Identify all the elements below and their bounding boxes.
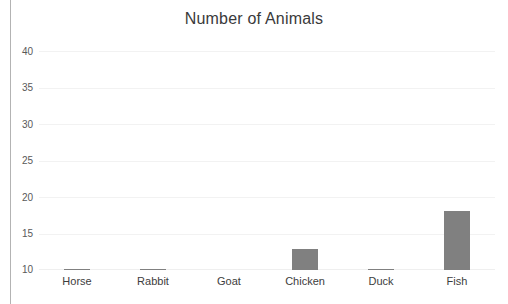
bar-slot-fish bbox=[419, 51, 495, 270]
x-tick-goat: Goat bbox=[191, 274, 267, 288]
y-tick-10: 10 bbox=[7, 265, 33, 275]
y-tick-30: 30 bbox=[7, 120, 33, 130]
bar-slot-horse bbox=[39, 51, 115, 270]
y-axis: 40 35 30 25 20 15 10 bbox=[0, 51, 33, 270]
bar-rabbit[interactable] bbox=[140, 269, 166, 271]
chart-figure: Number of Animals 40 35 30 25 20 15 10 bbox=[0, 0, 508, 304]
x-tick-chicken: Chicken bbox=[267, 274, 343, 288]
x-tick-duck: Duck bbox=[343, 274, 419, 288]
y-tick-20: 20 bbox=[7, 193, 33, 203]
bar-fish[interactable] bbox=[444, 211, 470, 270]
bar-slot-goat bbox=[191, 51, 267, 270]
y-tick-15: 15 bbox=[7, 229, 33, 239]
bar-chicken[interactable] bbox=[292, 249, 318, 270]
bars-layer bbox=[39, 51, 495, 270]
x-axis: Horse Rabbit Goat Chicken Duck Fish bbox=[39, 274, 495, 296]
x-tick-horse: Horse bbox=[39, 274, 115, 288]
bar-horse[interactable] bbox=[64, 269, 90, 271]
x-tick-rabbit: Rabbit bbox=[115, 274, 191, 288]
chart-title: Number of Animals bbox=[0, 9, 508, 29]
y-tick-40: 40 bbox=[7, 47, 33, 57]
y-tick-25: 25 bbox=[7, 156, 33, 166]
bar-slot-chicken bbox=[267, 51, 343, 270]
bar-duck[interactable] bbox=[368, 269, 394, 271]
y-tick-35: 35 bbox=[7, 83, 33, 93]
bar-slot-duck bbox=[343, 51, 419, 270]
x-tick-fish: Fish bbox=[419, 274, 495, 288]
bar-slot-rabbit bbox=[115, 51, 191, 270]
